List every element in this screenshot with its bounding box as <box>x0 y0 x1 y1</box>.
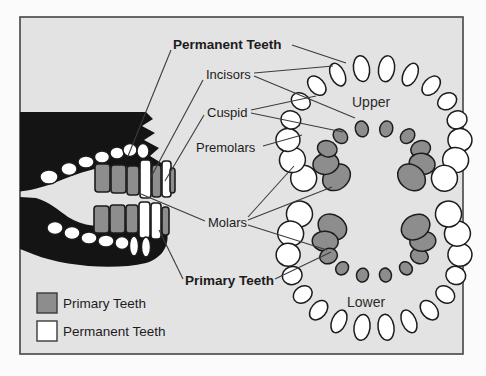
label-primary-teeth: Primary Teeth <box>185 273 274 288</box>
jaw-primary-tooth <box>162 207 169 235</box>
jaw-permanent-tooth <box>139 202 150 238</box>
jaw-unerupted-tooth <box>95 151 110 163</box>
label-upper-arch: Upper <box>352 94 390 110</box>
jaw-unerupted-tooth <box>64 227 80 240</box>
jaw-primary-tooth <box>95 164 110 192</box>
jaw-permanent-tooth <box>151 203 161 239</box>
label-permanent-teeth: Permanent Teeth <box>173 37 282 52</box>
label-incisors: Incisors <box>206 67 251 82</box>
jaw-unerupted-tooth <box>110 147 124 159</box>
legend-swatch-primary <box>37 293 57 313</box>
jaw-primary-tooth <box>152 165 161 197</box>
jaw-unerupted-tooth <box>115 237 129 250</box>
jaw-primary-tooth <box>126 205 138 233</box>
jaw-unerupted-tooth <box>142 237 151 257</box>
label-molars: Molars <box>208 215 248 230</box>
jaw-primary-tooth <box>94 206 109 233</box>
jaw-unerupted-tooth <box>98 235 114 247</box>
jaw-unerupted-tooth <box>130 236 139 256</box>
permanent-tooth <box>276 243 301 267</box>
jaw-unerupted-tooth <box>40 170 58 184</box>
label-premolars: Premolars <box>196 140 256 155</box>
jaw-unerupted-tooth <box>47 222 63 235</box>
jaw-primary-tooth <box>110 205 125 233</box>
legend-label-permanent: Permanent Teeth <box>63 324 166 339</box>
jaw-primary-tooth <box>111 165 126 193</box>
label-cuspid: Cuspid <box>207 105 247 120</box>
diagram-canvas: Permanent Teeth Incisors Cuspid Premolar… <box>0 0 486 376</box>
jaw-unerupted-tooth <box>81 232 97 244</box>
teeth-diagram-figure: Permanent Teeth Incisors Cuspid Premolar… <box>0 0 486 376</box>
legend-swatch-permanent <box>37 321 57 341</box>
jaw-unerupted-tooth <box>61 163 77 176</box>
jaw-permanent-tooth <box>140 160 151 198</box>
legend-label-primary: Primary Teeth <box>63 296 146 311</box>
jaw-unerupted-tooth <box>78 156 94 168</box>
jaw-unerupted-tooth <box>137 144 149 159</box>
label-lower-arch: Lower <box>347 294 385 310</box>
permanent-tooth <box>276 128 301 152</box>
jaw-primary-tooth <box>127 166 139 195</box>
